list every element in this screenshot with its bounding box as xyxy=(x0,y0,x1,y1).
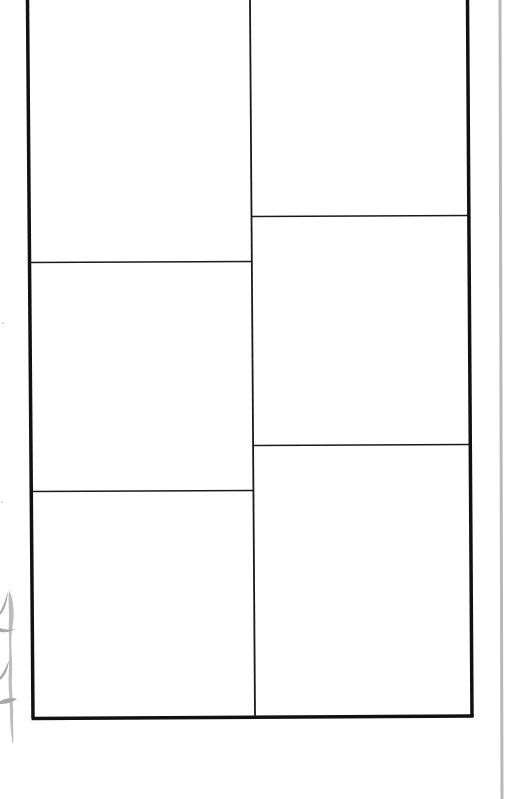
right-row-divider-1 xyxy=(251,216,468,217)
panel-1[interactable] xyxy=(28,0,251,263)
squiggle-doodle-icon xyxy=(0,590,17,745)
panel-5[interactable] xyxy=(251,216,470,446)
storyboard-page xyxy=(0,0,517,799)
panel-6[interactable] xyxy=(253,445,472,717)
stray-mark-2 xyxy=(1,501,3,503)
left-row-divider-1 xyxy=(29,262,251,263)
left-row-divider-2 xyxy=(31,491,253,492)
stray-mark-1 xyxy=(2,322,4,324)
right-row-divider-2 xyxy=(253,445,470,446)
frame-bottom-edge xyxy=(32,716,474,719)
panel-4[interactable] xyxy=(250,0,468,217)
panel-2[interactable] xyxy=(29,262,252,492)
page-edge-line xyxy=(500,0,502,799)
panel-3[interactable] xyxy=(31,491,255,718)
